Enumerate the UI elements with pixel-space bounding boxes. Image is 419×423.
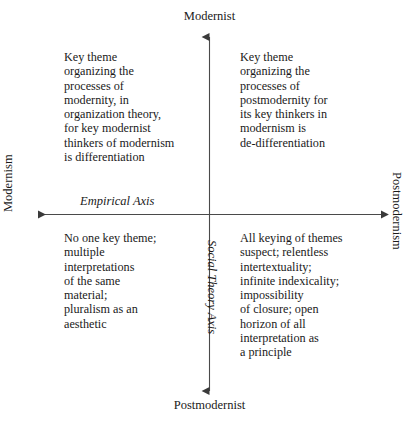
horizontal-axis-name: Empirical Axis <box>80 194 154 209</box>
axis-pole-label-postmodernist: Postmodernist <box>0 399 419 413</box>
quadrant-text-bottom-right: All keying of themes suspect; relentless… <box>240 231 390 360</box>
quadrant-text-top-right: Key theme organizing the processes of po… <box>240 50 390 150</box>
axis-pole-label-postmodernism: Postmodernism <box>389 172 403 250</box>
axis-pole-label-modernist: Modernist <box>0 10 419 24</box>
axis-pole-label-modernism: Modernism <box>2 154 16 212</box>
quadrant-diagram: Modernist Postmodernist Modernism Postmo… <box>0 0 419 423</box>
quadrant-text-bottom-left: No one key theme; multiple interpretatio… <box>64 231 204 331</box>
vertical-axis-name: Social Theory Axis <box>204 240 219 334</box>
quadrant-text-top-left: Key theme organizing the processes of mo… <box>64 50 204 164</box>
